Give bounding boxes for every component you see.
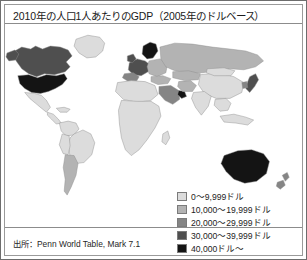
region-korea: [242, 82, 248, 89]
region-indonesia: [220, 114, 254, 125]
figure-inner-frame: 2010年の人口1人あたりのGDP（2005年のドルベース）: [4, 4, 303, 256]
region-north-africa: [116, 81, 158, 103]
region-mexico: [25, 92, 51, 112]
region-madagascar: [162, 131, 170, 145]
region-india: [191, 91, 211, 115]
region-greenland: [74, 35, 105, 58]
region-australia: [221, 150, 269, 184]
legend-label-bin-0: 0〜9,999ドル: [191, 192, 244, 202]
region-new-zealand-south: [276, 180, 285, 189]
legend-label-bin-2: 20,000〜29,999ドル: [191, 218, 271, 228]
figure-container: 2010年の人口1人あたりのGDP（2005年のドルベース）: [0, 0, 307, 260]
region-sub-saharan-africa: [118, 100, 160, 155]
legend-label-bin-1: 10,000〜19,999ドル: [191, 205, 271, 215]
legend-swatch-bin-0: [177, 192, 187, 201]
region-southeast-asia: [214, 98, 231, 111]
region-iran: [178, 81, 197, 92]
page-title: 2010年の人口1人あたりのGDP（2005年のドルベース）: [13, 8, 264, 23]
legend-item: 10,000〜19,999ドル: [177, 203, 302, 216]
figure-source-bar: 出所：Penn World Table, Mark 7.1: [5, 227, 302, 255]
legend-swatch-bin-2: [177, 218, 187, 227]
region-saudi-arabia: [159, 86, 180, 105]
region-caribbean: [56, 107, 70, 112]
region-turkey: [151, 76, 171, 85]
source-note: 出所：Penn World Table, Mark 7.1: [13, 237, 140, 249]
region-peru-bolivia: [59, 134, 70, 155]
region-canada: [13, 46, 72, 77]
region-russia: [160, 43, 264, 73]
legend-swatch-bin-1: [177, 205, 187, 214]
region-argentina-chile: [63, 155, 78, 195]
region-central-america: [47, 112, 61, 124]
legend-item: 0〜9,999ドル: [177, 190, 302, 203]
region-united-states: [18, 74, 67, 94]
figure-title-bar: 2010年の人口1人あたりのGDP（2005年のドルベース）: [5, 5, 302, 24]
world-map: 0〜9,999ドル 10,000〜19,999ドル 20,000〜29,999ド…: [5, 24, 302, 230]
region-japan: [246, 74, 259, 93]
region-new-zealand: [282, 172, 289, 181]
region-northern-europe: [142, 42, 158, 59]
